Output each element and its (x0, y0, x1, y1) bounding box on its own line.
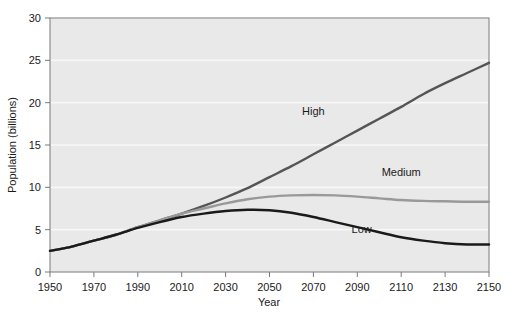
y-tick-label: 0 (35, 266, 41, 278)
x-tick-label: 2070 (301, 281, 325, 293)
y-tick-label: 30 (29, 12, 41, 24)
x-tick-label: 2030 (213, 281, 237, 293)
x-tick-label: 2150 (477, 281, 501, 293)
y-tick-label: 15 (29, 139, 41, 151)
x-tick-label: 1970 (82, 281, 106, 293)
population-projection-chart: 051015202530 195019701990201020302050207… (0, 0, 505, 324)
x-tick-label: 2050 (257, 281, 281, 293)
y-tick-label: 20 (29, 97, 41, 109)
y-tick-label: 25 (29, 54, 41, 66)
y-tick-label: 5 (35, 224, 41, 236)
x-tick-label: 2110 (389, 281, 413, 293)
x-tick-label: 1950 (38, 281, 62, 293)
y-tick-label: 10 (29, 181, 41, 193)
x-tick-label: 2090 (345, 281, 369, 293)
chart-canvas: 051015202530 195019701990201020302050207… (0, 0, 505, 324)
x-tick-label: 1990 (126, 281, 150, 293)
x-tick-label: 2130 (433, 281, 457, 293)
series-label-medium: Medium (382, 166, 421, 178)
series-label-high: High (302, 105, 325, 117)
y-axis-title: Population (billions) (6, 97, 18, 193)
x-axis-title: Year (258, 296, 281, 308)
series-label-low: Low (352, 223, 372, 235)
x-tick-label: 2010 (169, 281, 193, 293)
